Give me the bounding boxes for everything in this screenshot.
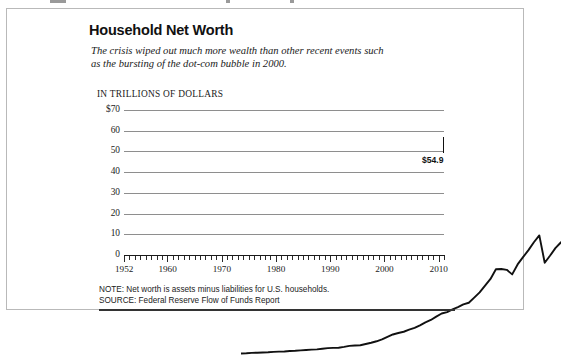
x-minor-tick xyxy=(135,256,136,260)
y-tick-label: 0 xyxy=(115,249,120,259)
y-tick-label: 40 xyxy=(111,166,120,176)
x-major-tick xyxy=(124,256,125,262)
x-minor-tick xyxy=(390,256,391,260)
x-axis-ticks xyxy=(124,256,445,263)
gridline xyxy=(124,151,444,152)
x-minor-tick xyxy=(249,256,250,260)
x-axis-tick-labels: 1952196019701980199020002010 xyxy=(107,264,467,276)
gridline xyxy=(124,234,444,235)
x-minor-tick xyxy=(287,256,288,260)
chart-subtitle: The crisis wiped out much more wealth th… xyxy=(91,44,391,70)
x-minor-tick xyxy=(298,256,299,260)
x-minor-tick xyxy=(325,256,326,260)
x-minor-tick xyxy=(189,256,190,260)
x-minor-tick xyxy=(178,256,179,260)
x-tick-label: 1980 xyxy=(267,264,285,274)
x-tick-label: 2010 xyxy=(430,264,448,274)
x-minor-tick xyxy=(363,256,364,260)
x-major-tick xyxy=(384,256,385,262)
x-tick-label: 1960 xyxy=(158,264,176,274)
x-minor-tick xyxy=(357,256,358,260)
y-tick-label: 10 xyxy=(111,228,120,238)
x-minor-tick xyxy=(146,256,147,260)
x-minor-tick xyxy=(292,256,293,260)
endpoint-value-label: $54.9 xyxy=(422,155,444,165)
x-major-tick xyxy=(222,256,223,262)
footer-rule xyxy=(99,309,455,311)
line-series xyxy=(241,211,561,356)
x-minor-tick xyxy=(195,256,196,260)
x-major-tick xyxy=(167,256,168,262)
x-minor-tick xyxy=(205,256,206,260)
x-minor-tick xyxy=(270,256,271,260)
x-minor-tick xyxy=(346,256,347,260)
x-minor-tick xyxy=(216,256,217,260)
x-minor-tick xyxy=(433,256,434,260)
chart-source: SOURCE: Federal Reserve Flow of Funds Re… xyxy=(99,296,280,305)
x-minor-tick xyxy=(260,256,261,260)
x-minor-tick xyxy=(254,256,255,260)
x-tick-label: 2000 xyxy=(375,264,393,274)
x-minor-tick xyxy=(243,256,244,260)
x-minor-tick xyxy=(428,256,429,260)
y-tick-label: 60 xyxy=(111,125,120,135)
x-minor-tick xyxy=(238,256,239,260)
x-minor-tick xyxy=(314,256,315,260)
y-tick-label: 50 xyxy=(111,145,120,155)
gridline xyxy=(124,131,444,132)
x-minor-tick xyxy=(336,256,337,260)
x-minor-tick xyxy=(211,256,212,260)
x-minor-tick xyxy=(352,256,353,260)
x-minor-tick xyxy=(140,256,141,260)
x-minor-tick xyxy=(129,256,130,260)
x-minor-tick xyxy=(368,256,369,260)
plot-area xyxy=(124,110,444,255)
x-minor-tick xyxy=(319,256,320,260)
x-minor-tick xyxy=(200,256,201,260)
x-major-tick xyxy=(276,256,277,262)
endpoint-leader-line xyxy=(443,137,444,153)
x-minor-tick xyxy=(151,256,152,260)
x-minor-tick xyxy=(281,256,282,260)
gridline xyxy=(124,214,444,215)
gridline xyxy=(124,110,444,111)
y-axis-title: IN TRILLIONS OF DOLLARS xyxy=(97,89,223,99)
x-minor-tick xyxy=(444,256,445,260)
x-minor-tick xyxy=(184,256,185,260)
y-axis-tick-labels: 0102030405060$70 xyxy=(93,110,120,255)
x-minor-tick xyxy=(227,256,228,260)
x-minor-tick xyxy=(379,256,380,260)
x-minor-tick xyxy=(341,256,342,260)
x-minor-tick xyxy=(417,256,418,260)
x-minor-tick xyxy=(395,256,396,260)
x-major-tick xyxy=(330,256,331,262)
x-minor-tick xyxy=(373,256,374,260)
x-minor-tick xyxy=(308,256,309,260)
x-minor-tick xyxy=(422,256,423,260)
x-minor-tick xyxy=(401,256,402,260)
y-tick-label: $70 xyxy=(106,104,120,114)
x-minor-tick xyxy=(265,256,266,260)
y-tick-label: 30 xyxy=(111,187,120,197)
gridline xyxy=(124,193,444,194)
x-minor-tick xyxy=(162,256,163,260)
x-tick-label: 1952 xyxy=(115,264,133,274)
page-title: Household Net Worth xyxy=(89,22,233,38)
x-minor-tick xyxy=(173,256,174,260)
x-tick-label: 1990 xyxy=(321,264,339,274)
x-minor-tick xyxy=(406,256,407,260)
x-major-tick xyxy=(439,256,440,262)
page-top-artifact xyxy=(0,0,529,5)
x-minor-tick xyxy=(303,256,304,260)
chart-note: NOTE: Net worth is assets minus liabilit… xyxy=(99,285,329,294)
y-tick-label: 20 xyxy=(111,208,120,218)
x-tick-label: 1970 xyxy=(213,264,231,274)
x-minor-tick xyxy=(157,256,158,260)
gridline xyxy=(124,172,444,173)
chart-card: Household Net Worth The crisis wiped out… xyxy=(6,8,524,310)
x-minor-tick xyxy=(411,256,412,260)
x-minor-tick xyxy=(232,256,233,260)
